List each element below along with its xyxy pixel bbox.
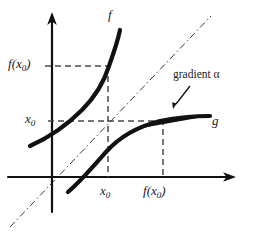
y-label-close-paren: ) [26,56,30,71]
gradient-annotation-label: gradient α [173,69,220,81]
y-label-var-subscript: 0 [31,118,36,128]
y-axis-label-f-of-x0: f(x0) [8,57,31,73]
x-label-var-subscript: 0 [106,190,111,200]
x-axis-label-x0: x0 [100,184,110,200]
gradient-annotation-arrowhead [172,100,179,109]
y-axis-label-x0: x0 [25,112,35,128]
curve-label-g: g [212,114,219,127]
curve-f [30,30,120,146]
math-figure: f(x0) x0 x0 f(x0) f g gradient α [0,0,254,234]
curve-label-f: f [108,8,112,21]
x-label-close-paren: ) [161,183,165,198]
x-axis-label-f-of-x0: f(x0) [143,184,166,200]
